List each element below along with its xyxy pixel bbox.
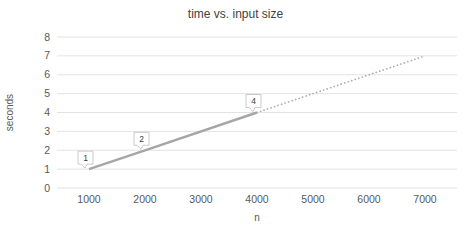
plot-area: 0123456781000200030004000500060007000124 <box>0 0 471 236</box>
chart: time vs. input size 01234567810002000300… <box>0 0 471 236</box>
x-tick-label: 3000 <box>189 193 213 205</box>
x-tick-label: 2000 <box>133 193 157 205</box>
y-tick-label: 1 <box>44 163 50 175</box>
x-tick-label: 5000 <box>301 193 325 205</box>
data-label-value: 2 <box>139 134 144 144</box>
y-tick-label: 5 <box>44 87 50 99</box>
x-axis-title: n <box>57 212 457 223</box>
x-tick-label: 1000 <box>77 193 101 205</box>
y-tick-label: 2 <box>44 144 50 156</box>
y-tick-label: 4 <box>44 106 50 118</box>
x-tick-label: 6000 <box>357 193 381 205</box>
y-tick-label: 8 <box>44 31 50 43</box>
extrapolated-series-line <box>257 56 425 113</box>
x-tick-label: 7000 <box>413 193 437 205</box>
data-label-value: 1 <box>83 153 88 163</box>
y-axis-title: seconds <box>4 78 15 148</box>
data-label-value: 4 <box>251 96 256 106</box>
y-tick-label: 6 <box>44 68 50 80</box>
measured-series-line <box>89 113 257 170</box>
x-tick-label: 4000 <box>245 193 269 205</box>
y-tick-label: 7 <box>44 49 50 61</box>
y-tick-label: 0 <box>44 182 50 194</box>
y-tick-label: 3 <box>44 125 50 137</box>
